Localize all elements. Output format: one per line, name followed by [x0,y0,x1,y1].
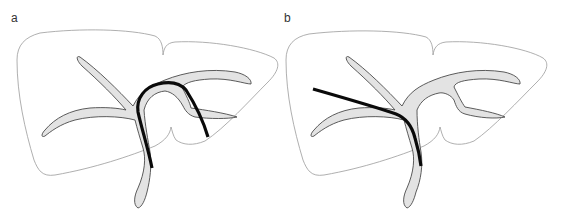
panel-b: b [281,0,562,217]
biliary-tree [311,57,520,208]
panel-a: a [0,0,281,217]
diagram-a [0,0,281,217]
biliary-tree [42,57,251,208]
diagram-b [281,0,562,217]
